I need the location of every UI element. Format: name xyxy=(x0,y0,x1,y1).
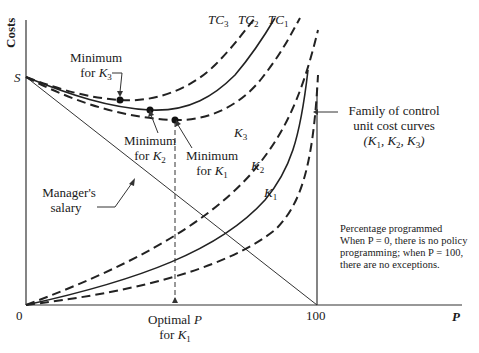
note-line1: Percentage programmed xyxy=(340,223,467,235)
y-tick-s: S xyxy=(14,70,21,85)
min-k2-leader xyxy=(151,115,158,133)
family-line1: Family of control xyxy=(338,103,450,118)
note-line4: there are no exceptions. xyxy=(340,259,467,271)
k3-label: K3 xyxy=(234,125,247,145)
salary-arrowhead xyxy=(129,178,135,186)
min-k3-point xyxy=(117,97,124,104)
optimal-p-annotation: Optimal P for K1 xyxy=(140,312,210,347)
min-k1-annotation: Minimum for K1 xyxy=(176,148,248,183)
min-k1-line1: Minimum xyxy=(176,148,248,163)
k2-label: K2 xyxy=(251,158,264,178)
family-line3: (K1, K2, K3) xyxy=(338,133,450,153)
family-line2: unit cost curves xyxy=(338,118,450,133)
optimal-line2: for K1 xyxy=(140,327,210,347)
optimal-p-arrowhead xyxy=(172,297,178,303)
min-k3-arrowhead xyxy=(117,91,123,97)
salary-annotation: Manager's salary xyxy=(36,185,102,215)
k1-label: K1 xyxy=(264,185,277,205)
x-tick-100: 100 xyxy=(306,308,326,323)
min-k1-line2: for K1 xyxy=(176,163,248,183)
tc1-label: TC1 xyxy=(268,12,288,32)
salary-leader xyxy=(97,183,132,207)
min-k3-line1: Minimum xyxy=(60,50,132,65)
optimal-line1: Optimal P xyxy=(140,312,210,327)
y-axis-label-text: Costs xyxy=(3,18,18,48)
min-k2-line1: Minimum xyxy=(114,133,186,148)
min-k3-annotation: Minimum for K3 xyxy=(60,50,132,85)
origin-label: 0 xyxy=(16,308,23,323)
x-axis-label: P xyxy=(452,309,460,324)
salary-line1: Manager's xyxy=(36,185,102,200)
note-line2: When P = 0, there is no policy xyxy=(340,235,467,247)
percentage-note: Percentage programmed When P = 0, there … xyxy=(340,223,467,271)
tc2-label: TC2 xyxy=(238,12,258,32)
y-axis-label: Costs xyxy=(3,18,18,48)
family-annotation: Family of control unit cost curves (K1, … xyxy=(338,103,450,153)
min-k3-line2: for K3 xyxy=(60,65,132,85)
salary-line2: salary xyxy=(36,200,102,215)
note-line3: programming; when P = 100, xyxy=(340,247,467,259)
tc3-label: TC3 xyxy=(208,12,228,32)
